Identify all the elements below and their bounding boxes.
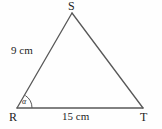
side-length-label-rs: 9 cm	[11, 45, 33, 56]
angle-label-alpha: α	[22, 98, 26, 106]
side-length-label-rt: 15 cm	[62, 111, 89, 122]
vertex-label-t: T	[140, 111, 147, 123]
angle-arc-r	[25, 96, 32, 109]
geometry-figure: S R T 9 cm 15 cm α	[0, 0, 162, 129]
side-st-line	[72, 13, 143, 108]
side-rs-line	[17, 13, 72, 108]
vertex-label-r: R	[9, 111, 17, 123]
vertex-label-s: S	[68, 0, 75, 12]
